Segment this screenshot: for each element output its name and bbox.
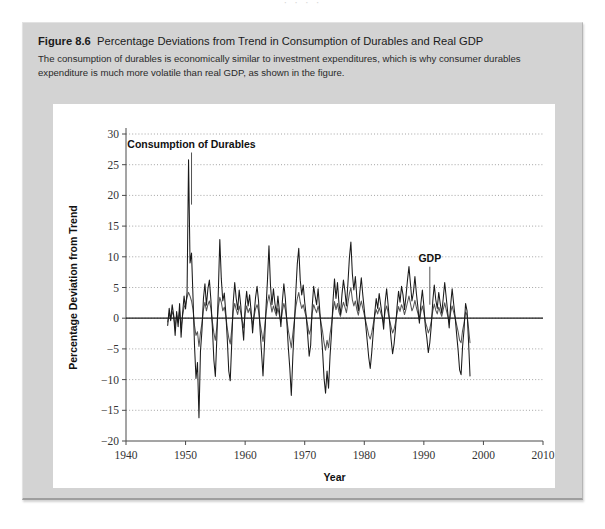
- y-tick-label: 20: [108, 189, 120, 201]
- x-tick-label: 1940: [115, 449, 138, 461]
- x-tick-label: 1980: [353, 449, 376, 461]
- figure-page: · · · · Figure 8.6Percentage Deviations …: [0, 0, 605, 529]
- figure-caption: The consumption of durables is economica…: [38, 52, 566, 79]
- axes: [122, 128, 543, 445]
- series-lines: [168, 160, 470, 418]
- y-tick-label: 25: [108, 159, 120, 171]
- page-bleed-text: · · · ·: [0, 0, 605, 10]
- y-tick-label: 0: [113, 312, 119, 324]
- x-tick-label: 1960: [234, 449, 257, 461]
- annotation-label: Consumption of Durables: [127, 138, 255, 150]
- x-tick-label: 1990: [412, 449, 435, 461]
- figure-panel: Figure 8.6Percentage Deviations from Tre…: [22, 22, 583, 500]
- x-tick-label: 2000: [472, 449, 495, 461]
- x-tick-labels: 19401950196019701980199020002010: [115, 449, 555, 461]
- line-chart: −20−15−10−5051015202530 1940195019601970…: [53, 104, 555, 488]
- figure-title-text: Percentage Deviations from Trend in Cons…: [97, 35, 483, 47]
- x-tick-label: 1970: [293, 449, 316, 461]
- x-tick-label: 2010: [532, 449, 555, 461]
- y-tick-label: 10: [108, 251, 120, 263]
- y-tick-label: −20: [101, 435, 119, 447]
- y-tick-label: −15: [101, 404, 119, 416]
- figure-title: Figure 8.6Percentage Deviations from Tre…: [38, 33, 570, 49]
- y-tick-label: 5: [113, 282, 119, 294]
- y-tick-label: 15: [108, 220, 120, 232]
- y-tick-labels: −20−15−10−5051015202530: [101, 128, 119, 447]
- x-axis-title: Year: [323, 471, 345, 483]
- plot-card: −20−15−10−5051015202530 1940195019601970…: [53, 104, 555, 488]
- annotation-label: GDP: [418, 252, 441, 264]
- y-tick-label: −5: [107, 343, 119, 355]
- x-tick-label: 1950: [174, 449, 197, 461]
- figure-header: Figure 8.6Percentage Deviations from Tre…: [38, 33, 570, 79]
- series-line-consumption-of-durables: [168, 160, 470, 418]
- y-tick-label: 30: [108, 128, 120, 140]
- series-annotations: Consumption of DurablesGDP: [127, 138, 441, 305]
- y-axis-title: Percentage Deviation from Trend: [67, 205, 79, 370]
- figure-number: Figure 8.6: [38, 35, 97, 47]
- y-tick-label: −10: [101, 374, 119, 386]
